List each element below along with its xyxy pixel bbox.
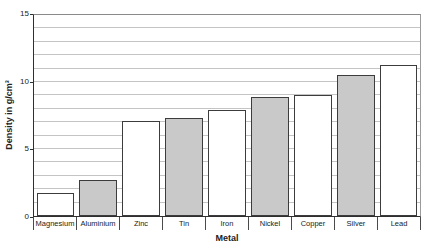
bar-lead [380,65,418,216]
bar-slot-tin [163,15,206,216]
bar-slot-copper [291,15,334,216]
y-tick-label-5: 5 [0,145,29,153]
bar-slot-nickel [248,15,291,216]
bar-tin [165,118,203,216]
x-label-magnesium: Magnesium [33,217,77,230]
x-label-zinc: Zinc [120,217,163,230]
x-label-lead: Lead [378,217,421,230]
x-label-aluminium: Aluminium [77,217,120,230]
x-label-tin: Tin [163,217,206,230]
bar-silver [337,75,375,216]
bar-series [34,15,420,216]
x-axis-category-labels: MagnesiumAluminiumZincTinIronNickelCoppe… [33,217,421,230]
bar-aluminium [79,180,117,216]
bar-slot-magnesium [34,15,77,216]
x-label-iron: Iron [206,217,249,230]
y-tick-mark-10 [30,82,33,83]
y-tick-label-0: 0 [0,213,29,221]
bar-slot-silver [334,15,377,216]
bar-slot-aluminium [77,15,120,216]
plot-area [33,14,421,217]
bar-slot-iron [206,15,249,216]
x-label-nickel: Nickel [249,217,292,230]
density-of-metals-bar-chart: Density in g/cm³ 051015 MagnesiumAlumini… [0,0,427,251]
bar-nickel [251,97,289,216]
y-tick-label-15: 15 [0,10,29,18]
x-label-silver: Silver [335,217,378,230]
y-tick-mark-15 [30,14,33,15]
bar-iron [208,110,246,216]
bar-copper [294,95,332,216]
y-tick-label-10: 10 [0,78,29,86]
bar-zinc [122,121,160,216]
y-tick-mark-5 [30,149,33,150]
bar-slot-zinc [120,15,163,216]
x-label-copper: Copper [292,217,335,230]
y-axis-title: Density in g/cm³ [4,80,14,150]
x-axis-title: Metal [33,233,421,243]
bar-slot-lead [377,15,420,216]
bar-magnesium [37,193,75,216]
